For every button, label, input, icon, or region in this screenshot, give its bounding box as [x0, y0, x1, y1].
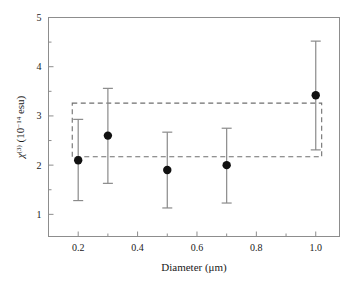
y-tick-label: 3 — [37, 110, 42, 121]
y-tick-label: 1 — [37, 209, 42, 220]
x-tick-label: 0.4 — [131, 242, 144, 253]
chart-figure: 0.20.40.60.81.0 12345 Diameter (μm) χ(3)… — [0, 0, 358, 284]
x-tick-label: 1.0 — [309, 242, 322, 253]
y-tick-label: 5 — [37, 12, 42, 23]
y-tick-label: 2 — [37, 160, 42, 171]
x-tick-label: 0.2 — [72, 242, 85, 253]
x-axis-title: Diameter (μm) — [161, 261, 227, 274]
x-tick-label: 0.8 — [250, 242, 263, 253]
data-point — [104, 131, 112, 139]
data-point — [312, 91, 320, 99]
data-point — [222, 161, 230, 169]
figure-background — [0, 0, 358, 284]
data-point — [163, 166, 171, 174]
x-tick-label: 0.6 — [191, 242, 204, 253]
data-point — [74, 156, 82, 164]
y-tick-label: 4 — [37, 61, 42, 72]
